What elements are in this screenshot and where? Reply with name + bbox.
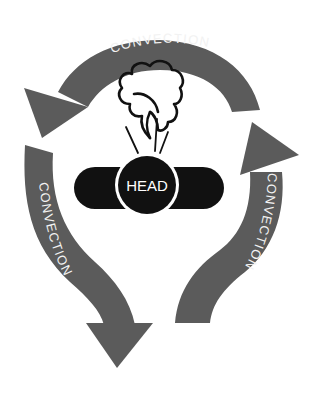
head-shape: HEAD <box>74 153 224 217</box>
right-convection-arrow: CONVECTION <box>175 122 299 323</box>
heat-line-left <box>126 127 138 153</box>
steam-cloud-icon <box>119 61 183 138</box>
right-arrow-head <box>240 122 299 175</box>
heat-line-right <box>160 132 168 153</box>
head-label: HEAD <box>126 177 168 194</box>
heat-line-mid <box>155 119 157 151</box>
convection-diagram: CONVECTION CONVECTION CONVECTION HEAD <box>0 0 317 402</box>
top-arrow-body <box>58 40 260 112</box>
cloud-stem <box>147 112 150 138</box>
left-arrow-head <box>86 323 153 368</box>
cloud-inner-curve <box>134 94 158 112</box>
